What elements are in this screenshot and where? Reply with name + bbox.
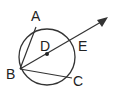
ray-bde bbox=[20, 22, 101, 69]
segment-ba bbox=[20, 27, 36, 69]
label-b: B bbox=[6, 66, 15, 82]
arrowhead-icon bbox=[97, 17, 108, 27]
label-d: D bbox=[40, 38, 50, 54]
label-a: A bbox=[31, 8, 41, 24]
label-c: C bbox=[73, 73, 83, 89]
circle-diagram: A B C D E bbox=[0, 0, 115, 96]
label-e: E bbox=[78, 38, 87, 54]
